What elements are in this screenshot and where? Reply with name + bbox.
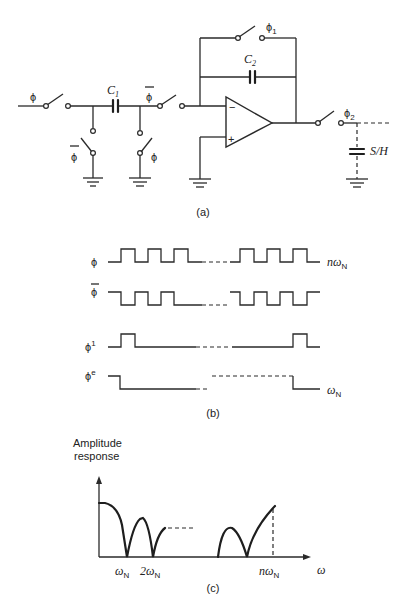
timing-label: ϕ1: [85, 339, 96, 353]
caption-a: (a): [196, 206, 209, 218]
reset-switch: ϕ1: [200, 21, 296, 40]
opamp-minus: −: [229, 101, 235, 113]
op-amp: − +: [226, 97, 272, 147]
timing-row-phibar: ϕ: [91, 284, 320, 305]
ground-symbol: [189, 179, 211, 187]
series-switch-label: ϕ: [146, 91, 152, 103]
sample-hold-capacitor: S/H: [350, 123, 389, 179]
x-tick-n-omega-n: nωN: [259, 564, 279, 580]
y-axis-label-line1: Amplitude: [73, 437, 122, 449]
reset-switch-label: ϕ1: [266, 21, 277, 36]
opamp-plus: +: [228, 133, 234, 145]
timing-label: ϕe: [85, 368, 96, 382]
response-curve-right: [218, 506, 275, 557]
input-switch-label: ϕ: [30, 91, 36, 103]
shunt-switch-right: ϕ: [138, 106, 158, 178]
c1-label: C1: [107, 83, 119, 99]
timing-right-label: nωN: [327, 255, 347, 271]
x-tick-omega-n: ωN: [115, 564, 129, 580]
ground-symbol: [83, 178, 103, 186]
response-curve-left: [99, 503, 165, 557]
x-axis-arrow-icon: [303, 554, 311, 560]
shunt-switch-left: ϕ: [70, 106, 95, 178]
series-switch: ϕ: [145, 87, 184, 108]
capacitor-c2: C2: [200, 52, 296, 83]
output-switch-label: ϕ2: [344, 107, 355, 122]
timing-label: ϕ: [91, 286, 97, 298]
shunt-left-label: ϕ: [71, 151, 77, 163]
c2-label: C2: [244, 52, 256, 68]
timing-panel: ϕ nωN ϕ ϕ1 ϕe ωN (: [85, 249, 347, 419]
x-tick-2omega-n: 2ωN: [140, 564, 160, 580]
circuit-panel: ϕ C1 ϕ: [18, 21, 390, 218]
ground-symbol: [346, 179, 368, 187]
y-axis-label-line2: response: [74, 450, 119, 462]
timing-row-phie: ϕe ωN: [85, 368, 341, 399]
figure-canvas: ϕ C1 ϕ: [0, 0, 405, 604]
timing-right-label: ωN: [327, 383, 341, 399]
timing-row-phi1: ϕ1: [85, 334, 320, 353]
caption-b: (b): [206, 407, 219, 419]
capacitor-c1: C1: [107, 83, 119, 112]
ground-symbol: [129, 178, 151, 186]
amplitude-panel: Amplitude response ωN 2ωN nωN ω (c): [73, 437, 325, 594]
sh-label: S/H: [370, 144, 389, 158]
timing-row-phi: ϕ nωN: [91, 249, 347, 271]
timing-label: ϕ: [91, 256, 97, 268]
y-axis-arrow-icon: [96, 476, 102, 484]
shunt-right-label: ϕ: [151, 151, 157, 163]
caption-c: (c): [207, 582, 220, 594]
x-axis-label: ω: [317, 563, 325, 577]
